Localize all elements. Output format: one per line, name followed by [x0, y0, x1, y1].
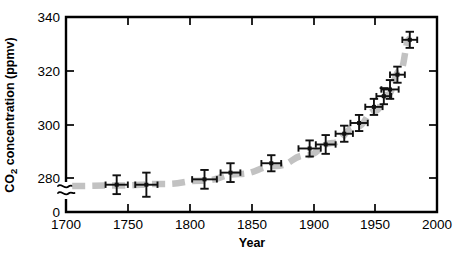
- data-point-marker: [382, 94, 386, 98]
- x-axis-tick-labels: 1700 1750 1800 1850 1900 1950 2000: [51, 217, 452, 232]
- data-point-marker: [388, 87, 392, 91]
- data-point-marker: [324, 142, 328, 146]
- data-point-marker: [408, 38, 412, 42]
- x-tick-label-1950: 1950: [360, 217, 390, 232]
- data-point-marker: [372, 105, 376, 109]
- chart-canvas: CO2 concentration (ppmv) 340 320: [0, 0, 465, 258]
- x-axis-title: Year: [239, 236, 266, 250]
- y-axis-ticks: [66, 17, 437, 178]
- x-tick-label-1700: 1700: [51, 217, 81, 232]
- y-tick-label-320: 320: [37, 64, 60, 79]
- data-point-marker: [342, 132, 346, 136]
- y-axis-break-icon: [58, 182, 75, 199]
- trend-line: [72, 38, 410, 186]
- y-axis-tick-labels: 340 320 300 280 0: [37, 10, 60, 220]
- y-axis-title: CO2 concentration (ppmv): [3, 37, 19, 192]
- data-point: [365, 99, 382, 115]
- x-tick-label-1750: 1750: [113, 217, 143, 232]
- data-point-marker: [269, 161, 273, 165]
- y-axis-title-text: CO2 concentration (ppmv): [3, 37, 19, 192]
- data-point-marker: [308, 146, 312, 150]
- y-tick-label-300: 300: [37, 118, 60, 133]
- x-tick-label-2000: 2000: [422, 217, 452, 232]
- data-point: [192, 170, 217, 189]
- data-point-marker: [395, 73, 399, 77]
- data-series-co2: [106, 32, 418, 197]
- data-point-marker: [357, 121, 361, 125]
- trend-line-path: [72, 38, 410, 186]
- x-tick-label-1900: 1900: [299, 217, 329, 232]
- x-tick-label-1800: 1800: [175, 217, 205, 232]
- x-tick-label-1850: 1850: [237, 217, 267, 232]
- co2-concentration-chart-figure: CO2 concentration (ppmv) 340 320: [0, 0, 465, 258]
- data-point-marker: [228, 171, 232, 175]
- data-point-marker: [144, 183, 148, 187]
- y-tick-label-340: 340: [37, 10, 60, 25]
- y-tick-label-280: 280: [37, 171, 60, 186]
- data-point-marker: [115, 183, 119, 187]
- data-point: [135, 173, 157, 197]
- data-point-marker: [203, 177, 207, 181]
- data-point: [106, 175, 128, 194]
